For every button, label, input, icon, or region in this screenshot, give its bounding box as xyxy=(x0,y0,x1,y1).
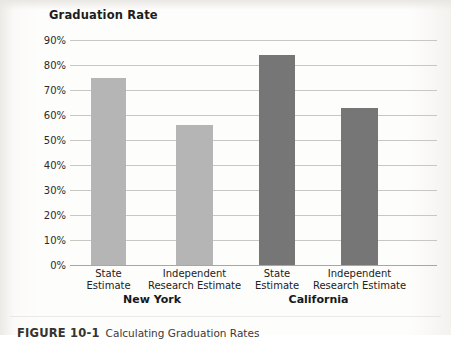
bar-label-3: IndependentResearch Estimate xyxy=(307,268,413,291)
plot-area xyxy=(70,40,437,265)
group-label-california: California xyxy=(249,293,389,306)
figure-caption-text: Calculating Graduation Rates xyxy=(106,327,260,339)
gridline-80 xyxy=(70,65,437,66)
bar-california-independent xyxy=(341,108,378,266)
y-tick-label-10: 10% xyxy=(44,235,66,246)
y-tick-label-20: 20% xyxy=(44,210,66,221)
figure-caption-number: FIGURE 10-1 xyxy=(17,326,100,340)
gridline-90 xyxy=(70,40,437,41)
y-tick-label-50: 50% xyxy=(44,135,66,146)
bar-label-line2: Research Estimate xyxy=(307,280,413,292)
bar-label-line1: Independent xyxy=(307,268,413,280)
x-axis-labels: StateEstimateIndependentResearch Estimat… xyxy=(70,268,437,314)
figure-caption: FIGURE 10-1Calculating Graduation Rates xyxy=(17,322,259,341)
y-tick-label-40: 40% xyxy=(44,160,66,171)
chart-title: Graduation Rate xyxy=(49,8,158,22)
y-tick-label-70: 70% xyxy=(44,85,66,96)
y-tick-label-30: 30% xyxy=(44,185,66,196)
bar-california-state xyxy=(259,55,295,265)
y-axis-tick-labels: 90%80%70%60%50%40%30%20%10%0% xyxy=(30,40,66,265)
bar-new-york-state xyxy=(91,78,126,266)
group-label-new-york: New York xyxy=(82,293,222,306)
y-tick-label-80: 80% xyxy=(44,60,66,71)
y-tick-label-90: 90% xyxy=(44,35,66,46)
bar-new-york-independent xyxy=(176,125,213,265)
caption-divider xyxy=(10,316,441,317)
y-tick-label-60: 60% xyxy=(44,110,66,121)
gridline-0 xyxy=(70,265,437,266)
